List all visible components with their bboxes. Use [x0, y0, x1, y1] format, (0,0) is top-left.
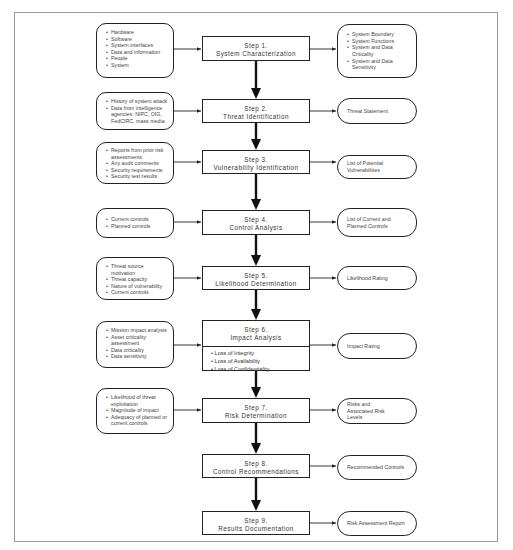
input-item: Threat source motivation — [106, 263, 169, 276]
input-item: Magnitude of impact — [106, 407, 169, 414]
output-box-step-5: Likelihood Rating — [337, 266, 417, 290]
step-4-box: Step 4. Control Analysis — [202, 210, 310, 235]
input-box-step-3: Reports from prior risk assessments Any … — [96, 142, 174, 184]
step-title: Vulnerability Identification — [203, 164, 309, 172]
input-item: Adequacy of planned or current controls — [106, 414, 169, 427]
step-number: Step 4. — [203, 216, 309, 224]
step-7-box: Step 7. Risk Determination — [202, 398, 310, 423]
potential-vulnerabilities: List of Potential Vulnerabilities — [347, 160, 386, 173]
output-item: System Boundary — [347, 31, 412, 38]
input-item: Threat capacity — [106, 276, 169, 283]
step-8-box: Step 8. Control Recommendations — [202, 454, 310, 478]
input-item: Reports from prior risk assessments — [106, 147, 169, 160]
step-5-box: Step 5. Likelihood Determination — [202, 266, 310, 290]
input-item: Mission impact analysis — [106, 327, 169, 334]
step-3-box: Step 3. Vulnerability Identification — [202, 150, 310, 174]
step-title: Threat Identification — [203, 113, 309, 121]
step-number: Step 6. — [203, 326, 309, 334]
impact-rating: Impact Rating — [347, 343, 412, 350]
current-planned-controls: List of Current and Planned Controls — [347, 216, 394, 229]
input-item: Nature of vulnerability — [106, 283, 169, 290]
input-item: Security test results — [106, 173, 169, 180]
input-box-step-2: History of system attack Data from intel… — [96, 92, 174, 130]
output-box-step-2: Threat Statement — [337, 98, 417, 124]
risk-levels: Risks and Associated Risk Levels — [347, 401, 394, 421]
input-box-step-7: Likelihood of threat exploitation Magnit… — [96, 388, 174, 434]
step-title: Likelihood Determination — [203, 280, 309, 288]
step-title: Impact Analysis — [203, 334, 309, 342]
impact-item: • Loss of Confidentiality — [211, 366, 309, 374]
step-2-box: Step 2. Threat Identification — [202, 99, 310, 123]
input-item: System — [106, 62, 169, 69]
output-box-step-7: Risks and Associated Risk Levels — [337, 398, 417, 424]
threat-statement: Threat Statement — [347, 108, 412, 115]
step-6-box: Step 6. Impact Analysis • Loss of Integr… — [202, 320, 310, 371]
step-number: Step 2. — [203, 105, 309, 113]
step-number: Step 9. — [203, 517, 309, 525]
input-item: People — [106, 55, 169, 62]
risk-assessment-report: Risk Assessment Report — [347, 520, 412, 527]
step-number: Step 7. — [203, 404, 309, 412]
output-box-step-4: List of Current and Planned Controls — [337, 208, 417, 237]
output-box-step-6: Impact Rating — [337, 333, 417, 359]
step-title: Control Recommendations — [203, 468, 309, 476]
recommended-controls: Recommended Controls — [347, 464, 412, 471]
input-item: Data from intelligence agencies: NIPC, O… — [106, 105, 169, 125]
input-item: Data sensitivity — [106, 353, 169, 360]
output-item: System Functions — [347, 38, 412, 45]
input-box-step-5: Threat source motivation Threat capacity… — [96, 257, 174, 300]
step-number: Step 1. — [203, 42, 309, 50]
output-item: System and Data Sensitivity — [347, 58, 412, 71]
step-number: Step 8. — [203, 460, 309, 468]
output-item: System and Data Criticality — [347, 44, 412, 57]
input-item: Data criticality — [106, 347, 169, 354]
output-box-step-1: System Boundary System Functions System … — [337, 24, 417, 78]
input-box-step-4: Current controls Planned controls — [96, 208, 174, 238]
input-item: Software — [106, 36, 169, 43]
input-item: Security requirements — [106, 167, 169, 174]
impact-item: • Loss of Availability — [211, 358, 309, 366]
input-item: Likelihood of threat exploitation — [106, 394, 169, 407]
input-item: Current controls — [106, 216, 169, 223]
impact-item: • Loss of Integrity — [211, 350, 309, 358]
step-number: Step 3. — [203, 156, 309, 164]
input-item: Planned controls — [106, 223, 169, 230]
input-item: Data and information — [106, 49, 169, 56]
step-title: System Characterization — [203, 50, 309, 58]
step-1-box: Step 1. System Characterization — [202, 36, 310, 61]
input-item: Any audit comments — [106, 160, 169, 167]
input-box-step-6: Mission impact analysis Asset criticalit… — [96, 321, 174, 368]
output-box-step-9: Risk Assessment Report — [337, 511, 417, 536]
input-item: Asset criticality assessment — [106, 334, 169, 347]
impact-list: • Loss of Integrity • Loss of Availabili… — [203, 346, 309, 373]
input-item: System interfaces — [106, 42, 169, 49]
step-number: Step 5. — [203, 272, 309, 280]
input-item: History of system attack — [106, 98, 169, 105]
input-item: Hardware — [106, 29, 169, 36]
likelihood-rating: Likelihood Rating — [347, 275, 412, 282]
step-title: Results Documentation — [203, 525, 309, 533]
input-box-step-1: Hardware Software System interfaces Data… — [96, 23, 174, 78]
output-box-step-3: List of Potential Vulnerabilities — [337, 155, 417, 179]
output-box-step-8: Recommended Controls — [337, 455, 417, 480]
input-item: Current controls — [106, 289, 169, 296]
step-title: Control Analysis — [203, 224, 309, 232]
step-9-box: Step 9. Results Documentation — [202, 511, 310, 535]
step-title: Risk Determination — [203, 412, 309, 420]
